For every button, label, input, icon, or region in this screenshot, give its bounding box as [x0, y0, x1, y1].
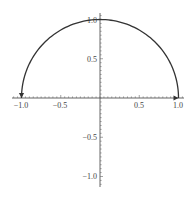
y-tick-label: −1.0 — [82, 172, 97, 181]
x-tick-labels: −1.0 −0.5 0.5 1.0 — [14, 101, 183, 110]
x-tick-label: −0.5 — [53, 101, 68, 110]
semicircle-plot: −1.0 −0.5 0.5 1.0 1.0 0.5 −0.5 −1.0 — [0, 0, 193, 198]
arrowhead-right-icon — [174, 95, 179, 100]
y-tick-label: −0.5 — [82, 133, 97, 142]
x-tick-label: 0.5 — [134, 101, 144, 110]
y-tick-label: 0.5 — [87, 55, 97, 64]
x-tick-label: −1.0 — [14, 101, 29, 110]
y-tick-label: 1.0 — [87, 16, 97, 25]
y-tick-labels: 1.0 0.5 −0.5 −1.0 — [82, 16, 97, 181]
x-tick-label: 1.0 — [173, 101, 183, 110]
arrowhead-left-icon — [19, 93, 24, 98]
